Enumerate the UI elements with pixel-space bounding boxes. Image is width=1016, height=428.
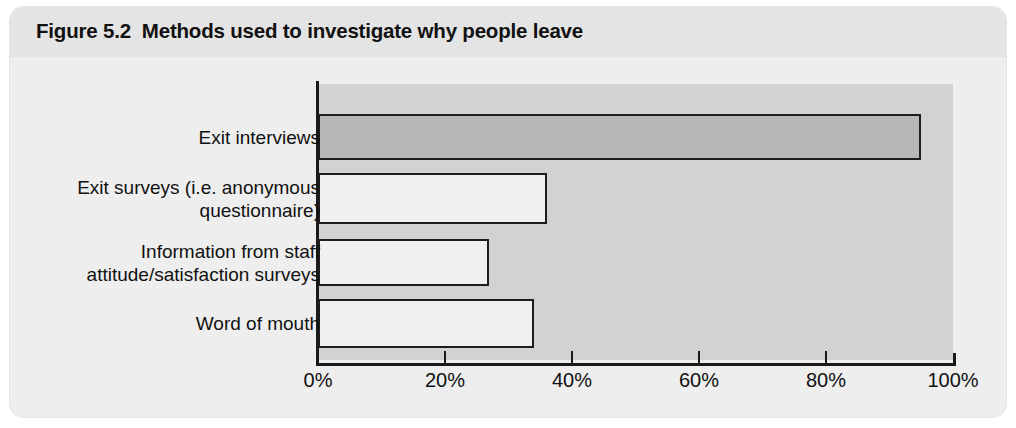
bar — [318, 173, 547, 224]
x-axis-tick-label: 0% — [304, 369, 333, 392]
x-axis-tick — [444, 351, 446, 364]
x-axis-tick-label: 40% — [552, 369, 592, 392]
x-axis-tick — [698, 351, 700, 364]
category-label: Exit interviews — [199, 126, 320, 149]
bar-chart: 0%20%40%60%80%100% Exit interviewsExit s… — [10, 57, 1006, 417]
x-axis-tick — [825, 351, 827, 364]
x-axis-tick-label: 80% — [806, 369, 846, 392]
x-axis-tick-label: 60% — [679, 369, 719, 392]
category-label: Exit surveys (i.e. anonymous questionnai… — [77, 176, 320, 222]
x-axis-tick-label: 20% — [425, 369, 465, 392]
x-axis-tick-label: 100% — [927, 369, 978, 392]
bar — [318, 114, 921, 160]
page-title: Figure 5.2 Methods used to investigate w… — [36, 19, 583, 43]
x-axis-end-cap — [953, 353, 956, 366]
bar — [318, 299, 534, 348]
x-axis-line — [316, 363, 956, 366]
x-axis-tick — [571, 351, 573, 364]
bar — [318, 239, 489, 286]
figure-container: Figure 5.2 Methods used to investigate w… — [10, 7, 1006, 417]
category-label: Information from staff attitude/satisfac… — [87, 240, 320, 286]
category-label: Word of mouth — [196, 312, 320, 335]
